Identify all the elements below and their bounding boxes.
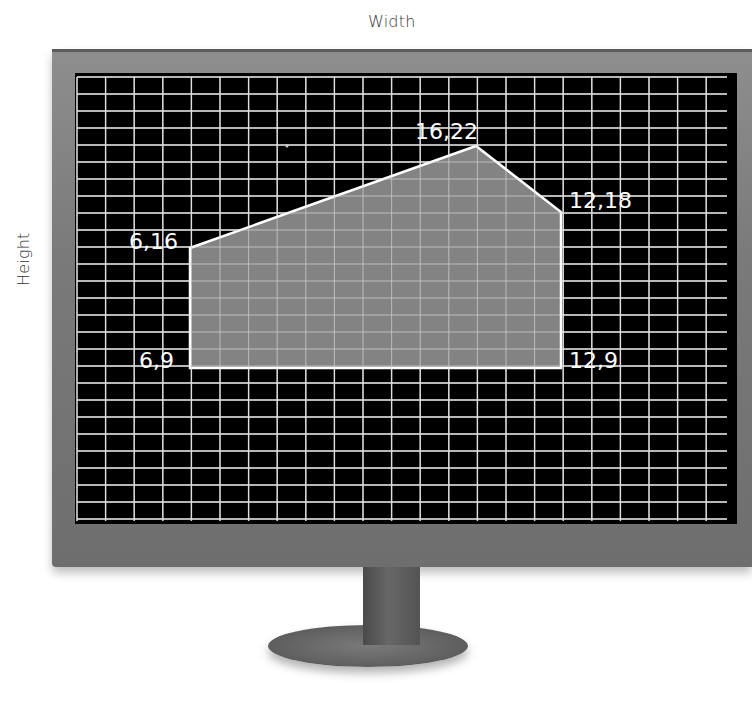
grid-chart: 6,16 16,22 12,18 12,9 6,9: [75, 73, 737, 524]
monitor-screen: 6,16 16,22 12,18 12,9 6,9: [75, 73, 737, 524]
vertex-label-12-18: 12,18: [569, 188, 632, 213]
x-axis-label: Width: [368, 12, 415, 31]
vertex-label-6-9: 6,9: [139, 348, 174, 373]
monitor-stand-neck-front: [363, 567, 420, 645]
y-axis-label: Height: [14, 232, 33, 286]
vertex-label-16-22: 16,22: [415, 119, 478, 144]
vertex-label-12-9: 12,9: [569, 348, 618, 373]
screen-speck: [286, 145, 289, 148]
vertex-label-6-16: 6,16: [129, 229, 178, 254]
